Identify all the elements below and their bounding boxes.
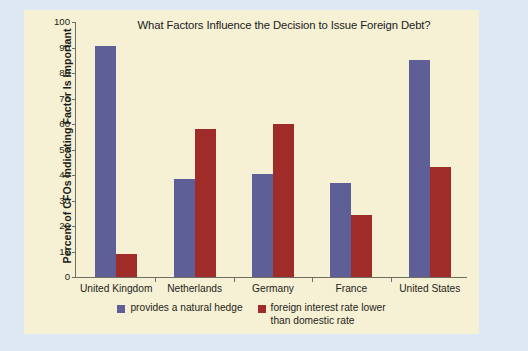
y-tick-label: 40 xyxy=(37,170,70,180)
bar xyxy=(174,179,195,277)
x-axis-category-label: United Kingdom xyxy=(80,283,153,294)
y-tick-label: 30 xyxy=(37,196,70,206)
bar xyxy=(95,46,116,277)
legend-label-foreign-rate: foreign interest rate lower than domesti… xyxy=(271,302,386,327)
legend-swatch-blue-icon xyxy=(117,305,125,313)
bar xyxy=(273,124,294,277)
x-tick-mark xyxy=(155,278,156,282)
y-tick-label: 80 xyxy=(37,68,70,78)
y-tick-label: 70 xyxy=(37,94,70,104)
bar xyxy=(430,167,451,277)
bar xyxy=(409,60,430,277)
bar xyxy=(195,129,216,277)
plot-area: 0102030405060708090100 United KingdomNet… xyxy=(75,22,467,277)
x-axis-line xyxy=(75,277,467,278)
bar xyxy=(116,254,137,277)
x-axis-category-label: France xyxy=(336,283,368,294)
y-tick-mark xyxy=(72,252,76,253)
chart-panel: What Factors Influence the Decision to I… xyxy=(24,10,479,334)
y-tick-label: 0 xyxy=(37,272,70,282)
y-tick-mark xyxy=(72,150,76,151)
bar xyxy=(330,183,351,277)
y-tick-label: 90 xyxy=(37,43,70,53)
y-tick-label: 10 xyxy=(37,247,70,257)
legend-item-foreign-rate[interactable]: foreign interest rate lower than domesti… xyxy=(258,302,386,327)
y-tick-mark xyxy=(72,124,76,125)
y-tick-label: 100 xyxy=(37,17,70,27)
y-tick-mark xyxy=(72,73,76,74)
legend-label-foreign-rate-line1: foreign interest rate lower xyxy=(271,302,386,313)
y-tick-mark xyxy=(72,175,76,176)
legend-label-natural-hedge: provides a natural hedge xyxy=(130,302,242,315)
bar xyxy=(252,174,273,277)
x-tick-mark xyxy=(312,278,313,282)
y-tick-label: 60 xyxy=(37,119,70,129)
y-tick-label: 20 xyxy=(37,221,70,231)
legend-label-foreign-rate-line2: than domestic rate xyxy=(271,315,386,328)
y-tick-label: 50 xyxy=(37,145,70,155)
x-tick-mark xyxy=(391,278,392,282)
chart-legend: provides a natural hedge foreign interes… xyxy=(24,302,479,327)
y-tick-mark xyxy=(72,22,76,23)
y-tick-mark xyxy=(72,48,76,49)
y-tick-mark xyxy=(72,201,76,202)
legend-item-natural-hedge[interactable]: provides a natural hedge xyxy=(117,302,242,315)
x-tick-mark xyxy=(234,278,235,282)
x-axis-category-label: United States xyxy=(399,283,460,294)
y-tick-mark xyxy=(72,226,76,227)
x-axis-category-label: Germany xyxy=(252,283,294,294)
legend-swatch-red-icon xyxy=(258,305,266,313)
y-tick-mark xyxy=(72,99,76,100)
y-tick-mark xyxy=(72,277,76,278)
x-axis-category-label: Netherlands xyxy=(167,283,222,294)
bar xyxy=(351,215,372,277)
